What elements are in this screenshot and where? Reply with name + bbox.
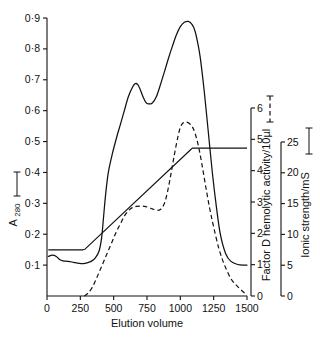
ionic-strength-tick-label: 25	[287, 136, 299, 148]
x-tick-label: 1500	[235, 302, 259, 314]
ionic-strength-tick-label: 0	[287, 290, 293, 302]
x-tick-label: 250	[72, 302, 90, 314]
a280-tick-label: 0·3	[25, 197, 40, 209]
a280-tick-label: 0·1	[25, 259, 40, 271]
a280-axis-title: A 280	[7, 203, 22, 227]
x-tick-label: 1250	[202, 302, 226, 314]
a280-tick-label: 0·4	[25, 166, 40, 178]
series-a280-curve	[48, 21, 247, 265]
x-tick-label: 1000	[169, 302, 193, 314]
axis-a280: 0·10·20·30·40·50·60·70·80·9	[25, 12, 47, 296]
factor-d-axis-title: Factor D hemolytic activity/10µl	[260, 129, 272, 281]
chart-canvas: 0·10·20·30·40·50·60·70·80·90250500750100…	[0, 0, 320, 340]
ionic-strength-axis-title: Ionic strength/mS	[299, 172, 311, 258]
a280-tick-label: 0·7	[25, 73, 40, 85]
a280-tick-label: 0·8	[25, 42, 40, 54]
series-ionic-strength-line	[48, 148, 247, 250]
axis-ionic-strength: 0510152025Ionic strength/mS	[281, 128, 313, 302]
axis-elution-volume: 0250500750100012501500Elution volume	[44, 296, 259, 329]
a280-tick-label: 0·9	[25, 12, 40, 24]
ionic-strength-tick-label: 5	[287, 259, 293, 271]
axis-factor-d: 0123456Factor D hemolytic activity/10µl	[251, 96, 274, 302]
ionic-strength-tick-label: 20	[287, 166, 299, 178]
a280-tick-label: 0·6	[25, 104, 40, 116]
a280-tick-label: 0·2	[25, 228, 40, 240]
a280-tick-label: 0·5	[25, 135, 40, 147]
ionic-strength-tick-label: 15	[287, 197, 299, 209]
x-tick-label: 0	[44, 302, 50, 314]
ionic-strength-tick-label: 10	[287, 228, 299, 240]
chromatogram-figure: 0·10·20·30·40·50·60·70·80·90250500750100…	[0, 0, 320, 340]
x-tick-label: 500	[105, 302, 123, 314]
x-axis-title: Elution volume	[111, 317, 183, 329]
a280-axis-title-group: A 280	[7, 172, 22, 227]
x-tick-label: 750	[138, 302, 156, 314]
factor-d-tick-label: 0	[257, 290, 263, 302]
factor-d-tick-label: 6	[257, 102, 263, 114]
